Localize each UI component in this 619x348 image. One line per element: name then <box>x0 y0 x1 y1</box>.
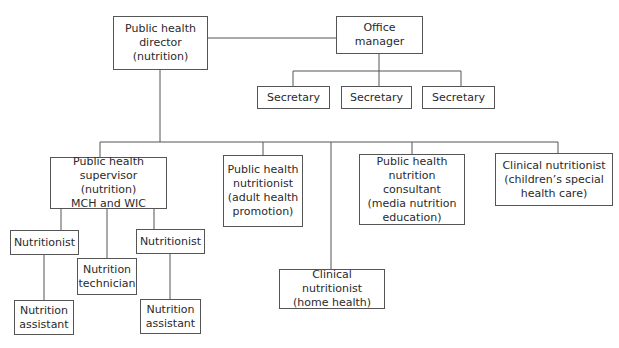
adult-nutritionist-line-2: nutritionist <box>228 177 299 191</box>
children-clinical-line-2: (children’s special <box>502 173 605 187</box>
adult-nutritionist-line-1: Public health <box>228 163 299 177</box>
adult-nutritionist-line-3: (adult health <box>228 191 299 205</box>
director-box: Public health director (nutrition) <box>113 16 208 70</box>
director-line-1: Public health <box>125 22 196 36</box>
media-consultant-line-2: nutrition consultant <box>363 169 461 197</box>
secretary-label: Secretary <box>267 91 320 105</box>
org-chart: Public health director (nutrition) Offic… <box>0 0 619 348</box>
adult-nutritionist-box: Public health nutritionist (adult health… <box>223 155 303 227</box>
supervisor-box: Public health supervisor (nutrition) MCH… <box>50 157 167 209</box>
technician-line-2: technician <box>79 277 136 291</box>
supervisor-line-1: Public health <box>54 155 163 169</box>
secretary-box-1: Secretary <box>257 86 330 109</box>
assistant-left-box: Nutrition assistant <box>14 300 74 335</box>
media-consultant-line-1: Public health <box>363 155 461 169</box>
nutritionist-right-box: Nutritionist <box>136 229 205 254</box>
secretary-label: Secretary <box>432 91 485 105</box>
media-consultant-line-3: (media nutrition <box>363 197 461 211</box>
adult-nutritionist-line-4: promotion) <box>228 205 299 219</box>
assistant-left-line-2: assistant <box>19 318 68 332</box>
nutritionist-right-label: Nutritionist <box>140 235 201 249</box>
nutritionist-left-box: Nutritionist <box>10 230 79 255</box>
assistant-right-line-2: assistant <box>146 317 195 331</box>
home-health-box: Clinical nutritionist (home health) <box>279 269 385 309</box>
assistant-right-line-1: Nutrition <box>146 303 195 317</box>
media-consultant-box: Public health nutrition consultant (medi… <box>359 154 465 225</box>
technician-line-1: Nutrition <box>79 263 136 277</box>
director-line-3: (nutrition) <box>125 50 196 64</box>
assistant-right-box: Nutrition assistant <box>140 299 201 334</box>
technician-box: Nutrition technician <box>77 258 137 295</box>
children-clinical-line-1: Clinical nutritionist <box>502 159 605 173</box>
supervisor-line-2: supervisor (nutrition) <box>54 169 163 197</box>
media-consultant-line-4: education) <box>363 211 461 225</box>
supervisor-line-3: MCH and WIC <box>54 197 163 211</box>
home-health-line-2: (home health) <box>283 296 381 310</box>
secretary-box-3: Secretary <box>422 86 495 109</box>
nutritionist-left-label: Nutritionist <box>14 236 75 250</box>
home-health-line-1: Clinical nutritionist <box>283 268 381 296</box>
secretary-label: Secretary <box>350 91 403 105</box>
office-manager-line-1: Office <box>355 21 404 35</box>
office-manager-line-2: manager <box>355 35 404 49</box>
children-clinical-box: Clinical nutritionist (children’s specia… <box>495 153 613 206</box>
assistant-left-line-1: Nutrition <box>19 304 68 318</box>
secretary-box-2: Secretary <box>341 86 412 109</box>
children-clinical-line-3: health care) <box>502 187 605 201</box>
office-manager-box: Office manager <box>336 16 423 54</box>
director-line-2: director <box>125 36 196 50</box>
